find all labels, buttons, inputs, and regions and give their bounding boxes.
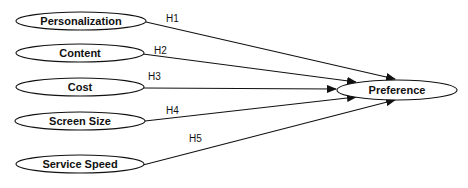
hypothesis-label-h3: H3	[148, 71, 161, 82]
edge-h3	[143, 88, 336, 89]
node-content: Content	[16, 44, 144, 62]
hypothesis-label-h2: H2	[154, 45, 167, 56]
path-diagram: H1 H2 H3 H4 H5 Personalization Content C…	[0, 0, 468, 188]
node-screen-size: Screen Size	[15, 112, 145, 130]
node-label-service-speed: Service Speed	[42, 158, 117, 170]
hypothesis-label-h1: H1	[166, 13, 179, 24]
node-preference: Preference	[337, 80, 457, 100]
node-cost: Cost	[16, 78, 144, 96]
node-service-speed: Service Speed	[16, 155, 144, 173]
node-label-cost: Cost	[68, 81, 93, 93]
edge-h2	[143, 54, 356, 82]
hypothesis-label-h4: H4	[166, 105, 179, 116]
node-label-personalization: Personalization	[40, 15, 122, 27]
hypothesis-label-h5: H5	[189, 133, 202, 144]
node-label-screen-size: Screen Size	[49, 115, 111, 127]
edge-h5	[143, 100, 395, 165]
node-label-preference: Preference	[369, 84, 426, 96]
node-label-content: Content	[59, 47, 101, 59]
node-personalization: Personalization	[16, 12, 146, 30]
